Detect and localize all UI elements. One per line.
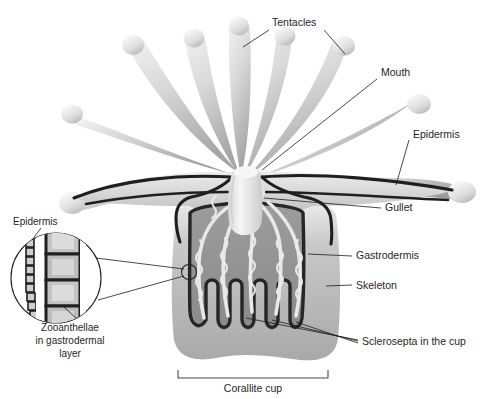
label-mouth: Mouth [381,66,410,78]
label-tentacles: Tentacles [272,16,316,28]
label-inset-epidermis: Epidermis [13,216,57,227]
label-sclerosepta: Sclerosepta in the cup [362,335,466,347]
label-inset-zooanthellae-1: Zooanthellae [41,322,99,333]
label-gullet: Gullet [385,201,413,213]
coral-polyp-diagram: Tentacles Mouth Epidermis Gullet Gastrod… [0,0,487,399]
label-inset-zooanthellae-3: layer [59,348,81,359]
label-corallite-cup: Corallite cup [224,382,283,394]
inset-gastrodermal-cells [46,228,80,332]
mouth-opening [234,166,258,178]
diagram-root: Tentacles Mouth Epidermis Gullet Gastrod… [0,0,487,399]
label-gastrodermis: Gastrodermis [356,249,419,261]
label-epidermis-right: Epidermis [413,128,460,140]
inset-content [24,228,86,332]
label-inset-zooanthellae-2: in gastrodermal [36,335,105,346]
label-skeleton: Skeleton [356,279,397,291]
